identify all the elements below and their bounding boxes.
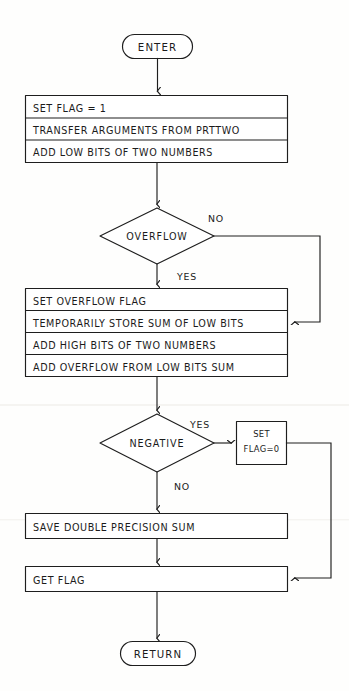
flowchart-canvas: ENTER SET FLAG = 1 TRANSFER ARGUMENTS FR… [0,0,349,691]
overflow-no-label: NO [208,213,224,224]
node-enter: ENTER [123,35,193,59]
node-overflow-block: SET OVERFLOW FLAG TEMPORARILY STORE SUM … [26,289,288,377]
edge-setflag-to-getflag [287,443,332,578]
set-flag-zero-line-2: FLAG=0 [244,444,280,454]
overflow-yes-label: YES [176,271,197,282]
overflow-line-1: SET OVERFLOW FLAG [33,296,146,307]
init-line-2: TRANSFER ARGUMENTS FROM PRTTWO [32,125,240,136]
negative-label: NEGATIVE [129,438,184,449]
flowchart-svg: ENTER SET FLAG = 1 TRANSFER ARGUMENTS FR… [0,0,349,691]
enter-label: ENTER [138,42,177,53]
node-set-flag-zero: SET FLAG=0 [237,422,287,465]
set-flag-zero-shape [237,422,287,465]
negative-no-label: NO [174,481,190,492]
node-return: RETURN [121,642,196,666]
node-overflow-decision: OVERFLOW [100,208,214,264]
overflow-line-2: TEMPORARILY STORE SUM OF LOW BITS [32,318,244,329]
node-get-flag: GET FLAG [26,567,288,592]
return-label: RETURN [134,649,183,660]
set-flag-zero-line-1: SET [253,429,270,439]
overflow-line-4: ADD OVERFLOW FROM LOW BITS SUM [33,362,235,373]
negative-yes-label: YES [189,419,210,430]
get-flag-label: GET FLAG [33,575,85,586]
overflow-line-3: ADD HIGH BITS OF TWO NUMBERS [33,340,216,351]
init-line-3: ADD LOW BITS OF TWO NUMBERS [33,147,213,158]
scan-artifact-upper [0,404,349,406]
save-sum-label: SAVE DOUBLE PRECISION SUM [33,522,195,533]
overflow-label: OVERFLOW [126,231,187,242]
node-save-sum: SAVE DOUBLE PRECISION SUM [26,514,288,539]
init-line-1: SET FLAG = 1 [33,103,106,114]
node-init-block: SET FLAG = 1 TRANSFER ARGUMENTS FROM PRT… [26,96,288,163]
